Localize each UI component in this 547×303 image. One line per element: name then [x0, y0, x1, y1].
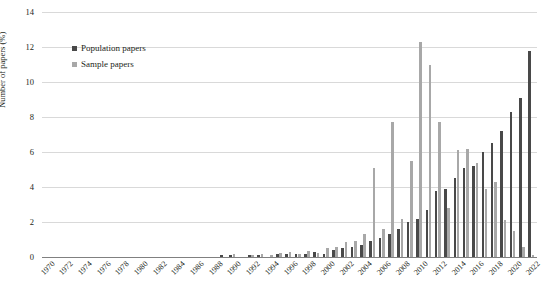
bar-population: [454, 178, 457, 257]
bar-population: [510, 112, 513, 257]
bar-population: [426, 210, 429, 257]
bar-population: [257, 255, 260, 257]
bar-population: [379, 238, 382, 257]
bar-sample: [307, 251, 310, 257]
bar-sample: [354, 241, 357, 257]
bar-population: [313, 252, 316, 257]
bar-population: [463, 168, 466, 257]
bar-sample: [298, 254, 301, 258]
bar-sample: [419, 42, 422, 257]
bar-group: [425, 12, 434, 257]
bar-sample: [513, 231, 516, 257]
bar-group: [145, 12, 154, 257]
bar-group: [397, 12, 406, 257]
bar-population: [220, 255, 223, 257]
bar-group: [182, 12, 191, 257]
legend-label-sample: Sample papers: [81, 60, 134, 69]
bar-sample: [504, 220, 507, 257]
bar-population: [407, 222, 410, 257]
y-tick-label: 2: [30, 218, 34, 227]
bar-group: [313, 12, 322, 257]
bar-sample: [438, 122, 441, 257]
bar-group: [518, 12, 527, 257]
bar-group: [444, 12, 453, 257]
bar-population: [351, 247, 354, 257]
bar-sample: [345, 242, 348, 257]
bar-population: [482, 152, 485, 257]
bar-group: [173, 12, 182, 257]
bar-group: [257, 12, 266, 257]
bar-group: [201, 12, 210, 257]
y-tick-label: 4: [30, 183, 34, 192]
bar-group: [61, 12, 70, 257]
bar-population: [397, 229, 400, 257]
bar-group: [238, 12, 247, 257]
bar-sample: [251, 255, 254, 257]
x-axis-tick-labels: 1970197219741976197819801982198419861988…: [42, 258, 537, 303]
bar-group: [434, 12, 443, 257]
bar-population: [435, 191, 438, 258]
bar-sample: [326, 248, 329, 257]
y-axis-tick-labels: 02468101214: [0, 0, 42, 303]
bar-group: [500, 12, 509, 257]
bar-sample: [447, 208, 450, 257]
bar-population: [276, 254, 279, 258]
bar-sample: [373, 168, 376, 257]
bar-sample: [261, 254, 264, 257]
bar-population: [528, 51, 531, 258]
bar-group: [219, 12, 228, 257]
y-tick-label: 8: [30, 113, 34, 122]
bar-population: [285, 254, 288, 258]
bar-sample: [363, 234, 366, 257]
legend-label-population: Population papers: [81, 44, 146, 53]
bar-group: [332, 12, 341, 257]
legend-swatch-icon-sample: [72, 62, 77, 67]
y-tick-label: 0: [30, 253, 34, 262]
bar-group: [247, 12, 256, 257]
bar-group: [275, 12, 284, 257]
bar-population: [472, 166, 475, 257]
bar-group: [509, 12, 518, 257]
bar-sample: [457, 150, 460, 257]
bar-group: [191, 12, 200, 257]
bar-sample: [233, 254, 236, 257]
bar-group: [528, 12, 537, 257]
chart-legend: Population papers Sample papers: [72, 40, 146, 72]
bar-population: [500, 131, 503, 257]
bar-group: [341, 12, 350, 257]
bar-sample: [485, 189, 488, 257]
bar-population: [360, 245, 363, 257]
bar-group: [406, 12, 415, 257]
bar-population: [491, 143, 494, 257]
bar-population: [388, 234, 391, 257]
bar-group: [154, 12, 163, 257]
bar-group: [322, 12, 331, 257]
bar-population: [416, 219, 419, 258]
bar-population: [323, 254, 326, 258]
bar-group: [388, 12, 397, 257]
legend-item-sample: Sample papers: [72, 56, 146, 72]
bar-group: [378, 12, 387, 257]
bar-group: [472, 12, 481, 257]
bar-sample: [494, 182, 497, 257]
bar-group: [210, 12, 219, 257]
bar-group: [294, 12, 303, 257]
bar-population: [369, 241, 372, 257]
bar-group: [369, 12, 378, 257]
bar-group: [453, 12, 462, 257]
bar-group: [229, 12, 238, 257]
bar-sample: [335, 247, 338, 257]
bar-sample: [289, 252, 292, 257]
bar-group: [490, 12, 499, 257]
bar-group: [163, 12, 172, 257]
bar-group: [360, 12, 369, 257]
bar-sample: [532, 255, 535, 257]
bar-group: [350, 12, 359, 257]
bar-sample: [429, 65, 432, 258]
bar-sample: [410, 161, 413, 257]
bar-sample: [317, 253, 320, 257]
bar-population: [229, 255, 232, 257]
bar-group: [285, 12, 294, 257]
bar-group: [266, 12, 275, 257]
legend-swatch-icon-population: [72, 46, 77, 51]
